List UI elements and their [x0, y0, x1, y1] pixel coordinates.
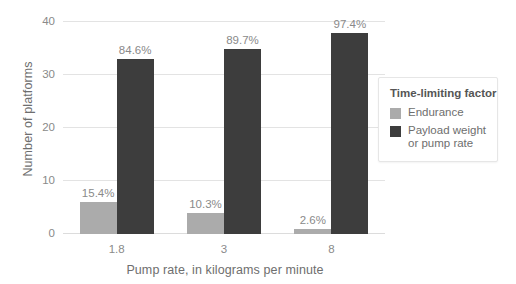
bar-payload[interactable]: 89.7% [224, 49, 261, 235]
bar-payload[interactable]: 84.6% [117, 59, 154, 234]
bar-value-label: 10.3% [189, 198, 222, 210]
bar-endurance[interactable]: 10.3% [187, 213, 224, 234]
x-axis-tick-label: 3 [221, 243, 227, 255]
y-axis-tick-label: 30 [42, 68, 55, 80]
y-axis-tick-label: 20 [42, 121, 55, 133]
y-axis-tick-label: 10 [42, 174, 55, 186]
y-axis-title: Number of platforms [21, 29, 35, 209]
bar-payload[interactable]: 97.4% [331, 33, 368, 234]
x-axis-tick-label: 8 [328, 243, 334, 255]
bar-value-label: 15.4% [82, 187, 115, 199]
legend-item-endurance[interactable]: Endurance [390, 106, 487, 120]
bar-value-label: 2.6% [300, 214, 326, 226]
legend-title: Time-limiting factor [390, 87, 487, 99]
bar-value-label: 89.7% [226, 34, 259, 46]
x-axis-tick-label: 1.8 [109, 243, 125, 255]
y-axis-tick-label: 0 [49, 227, 55, 239]
bar-endurance[interactable]: 15.4% [80, 202, 117, 234]
legend-label-endurance: Endurance [408, 106, 464, 120]
bar-value-label: 84.6% [119, 44, 152, 56]
bar-group: 2.6%97.4%8 [294, 22, 368, 234]
bar-value-label: 97.4% [334, 18, 367, 30]
legend-swatch-endurance-icon [390, 108, 401, 119]
legend-item-payload[interactable]: Payload weight or pump rate [390, 124, 487, 151]
plot-area: 01020304015.4%84.6%1.810.3%89.7%32.6%97.… [63, 22, 385, 234]
legend-label-payload: Payload weight or pump rate [408, 124, 487, 151]
bar-group: 10.3%89.7%3 [187, 22, 261, 234]
legend-swatch-payload-icon [390, 126, 401, 137]
x-axis-title: Pump rate, in kilograms per minute [60, 263, 390, 277]
bar-group: 15.4%84.6%1.8 [80, 22, 154, 234]
bar-chart: Number of platforms 01020304015.4%84.6%1… [0, 0, 516, 284]
y-axis-tick-label: 40 [42, 15, 55, 27]
legend: Time-limiting factor Endurance Payload w… [378, 77, 498, 162]
bar-endurance[interactable]: 2.6% [294, 229, 331, 234]
